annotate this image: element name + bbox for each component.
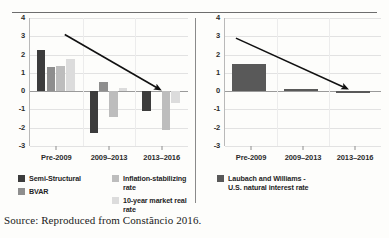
y-tick-label: -3 [19,142,25,150]
legend-label-inflation-stabilizing-rate: Inflation-stabilizing rate [123,174,192,192]
legend-item: BVAR [18,187,112,196]
y-tick-label: -3 [214,142,220,150]
x-axis-category-label: 2013–2016 [143,153,180,162]
x-axis-category-label: 2009–2013 [285,153,322,162]
legend-label-10-year-market-real-rate: 10-year market real rate [123,196,192,214]
x-axis-tick [251,146,252,150]
y-tick-label: 0 [21,87,25,95]
x-axis-ticks-right: Pre-20092009–20132013–2016 [225,146,381,168]
x-axis-category-label: Pre-2009 [41,153,71,162]
bar-group [329,18,381,146]
source-caption: Source: Reproduced from Constãncio 2016. [4,214,201,226]
legend-item: 10-year market real rate [112,196,192,214]
panel-divider [195,18,196,203]
legend-label-laubach-williams: Laubach and Williams - U.S. natural inte… [228,174,308,192]
y-tick-label: 3 [216,33,220,41]
legend-right: Laubach and Williams - U.S. natural inte… [217,174,387,196]
x-axis-category-label: Pre-2009 [236,153,266,162]
chart-panel-right: 43210-1-2-3 Pre-20092009–20132013–2016 L… [197,18,387,204]
bar [336,91,370,93]
bar [109,91,118,117]
y-tick-label: 1 [21,69,25,77]
x-axis-tick [161,146,162,150]
bar [56,66,65,91]
x-axis-category-label: 2013–2016 [337,153,374,162]
axes-left [30,18,188,146]
y-tick-label: 2 [216,51,220,59]
legend-label-line1: Laubach and Williams - [228,174,306,183]
x-axis-tick [109,146,110,150]
bar [142,91,151,111]
y-tick-label: -2 [19,124,25,132]
legend-swatch-inflation-stabilizing-rate [112,175,119,182]
legend-item: Semi-Structural [18,174,112,183]
figure-container: 43210-1-2-3 Pre-20092009–20132013–2016 S… [0,0,389,238]
y-axis-labels-left: 43210-1-2-3 [2,18,28,146]
x-axis-category-label: 2009–2013 [91,153,128,162]
legend-left: Semi-Structural BVAR Inflation-stabilizi… [18,174,194,218]
bar [90,91,99,133]
bar-group [30,18,83,146]
legend-label-semi-structural: Semi-Structural [29,174,81,183]
bar [162,91,171,129]
y-tick-label: 4 [216,14,220,22]
y-tick-label: -1 [214,106,220,114]
y-tick-label: 1 [216,69,220,77]
legend-label-bvar: BVAR [29,187,48,196]
bar [232,64,266,91]
bar [119,88,128,91]
y-tick-label: 3 [21,33,25,41]
bar [37,50,46,91]
figure-top-rule [12,12,377,13]
x-axis-tick [355,146,356,150]
bar-group [83,18,136,146]
axes-right [225,18,381,146]
x-axis-tick [56,146,57,150]
legend-label-line2: U.S. natural interest rate [228,183,308,192]
bar-group [277,18,329,146]
y-tick-label: -1 [19,106,25,114]
y-tick-label: -2 [214,124,220,132]
bar [47,67,56,91]
chart-panel-left: 43210-1-2-3 Pre-20092009–20132013–2016 S… [2,18,194,204]
legend-item: Inflation-stabilizing rate [112,174,192,192]
bar [284,89,318,91]
y-axis-labels-right: 43210-1-2-3 [197,18,223,146]
legend-item: Laubach and Williams - U.S. natural inte… [217,174,387,192]
bar-group [225,18,277,146]
x-axis-tick [303,146,304,150]
bar [66,59,75,91]
legend-swatch-10-year-market-real-rate [112,197,119,204]
bar [99,82,108,91]
y-tick-label: 0 [216,87,220,95]
y-tick-label: 2 [21,51,25,59]
bar [171,91,180,103]
legend-swatch-bvar [18,188,25,195]
bar-group [135,18,188,146]
legend-swatch-semi-structural [18,175,25,182]
y-tick-label: 4 [21,14,25,22]
x-axis-ticks-left: Pre-20092009–20132013–2016 [30,146,188,168]
legend-swatch-laubach-williams [217,175,224,182]
